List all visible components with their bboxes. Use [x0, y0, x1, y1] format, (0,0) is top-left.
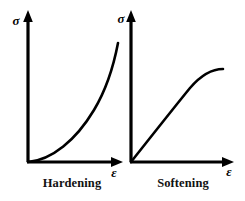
softening-caption: Softening	[157, 176, 209, 190]
hardening-caption: Hardening	[43, 176, 102, 190]
hardening-curve	[28, 43, 118, 162]
hardening-x-axis-label: ε	[111, 165, 117, 180]
figure-canvas: σ ε Hardening σ ε Softening	[0, 0, 245, 201]
stress-strain-figure: σ ε Hardening σ ε Softening	[0, 0, 245, 201]
hardening-y-axis-label: σ	[12, 13, 20, 28]
softening-y-axis-label: σ	[117, 11, 125, 26]
softening-x-axis-label: ε	[226, 164, 232, 179]
softening-curve	[131, 69, 223, 162]
panel-hardening: σ ε Hardening	[12, 10, 123, 190]
softening-y-axis-arrowhead	[126, 10, 136, 22]
hardening-y-axis-arrowhead	[23, 10, 33, 22]
panel-softening: σ ε Softening	[117, 10, 234, 190]
